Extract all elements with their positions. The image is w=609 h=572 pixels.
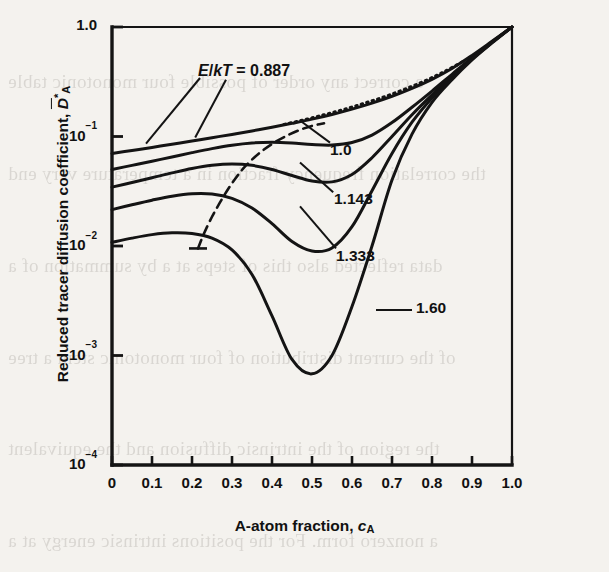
leader-line-header <box>146 78 200 144</box>
y-tick-label: 1.0 <box>0 16 97 33</box>
x-axis-title-text: A-atom fraction, <box>235 517 358 534</box>
curve-series-2 <box>112 27 512 187</box>
curve-label-1.143: 1.143 <box>334 190 373 208</box>
curve-series-0 <box>112 27 512 153</box>
leader-line-1.143 <box>300 162 333 192</box>
auxiliary-curves <box>189 61 464 249</box>
curve-label-1.60: 1.60 <box>416 299 446 317</box>
equals-symbol: = <box>232 62 250 79</box>
leader-line-1.333 <box>300 206 336 248</box>
x-tick-label: 1.0 <box>482 474 542 491</box>
figure-panel: Reduced tracer diffusion coefficient, D*… <box>0 0 609 572</box>
y-axis-symbol: D <box>54 98 71 109</box>
axis-frame <box>112 27 512 465</box>
curve-label-1.333: 1.333 <box>336 247 375 265</box>
leader-line-0.887 <box>195 80 226 138</box>
data-curves <box>112 27 512 374</box>
axis-ticks <box>112 27 512 465</box>
series-label-value: 0.887 <box>250 62 290 79</box>
energy-symbol: E <box>198 62 209 79</box>
x-axis-subscript: A <box>366 523 374 535</box>
y-tick-label: 10−2 <box>0 235 97 253</box>
curve-series-1 <box>112 27 512 169</box>
kT-symbol: kT <box>213 62 232 79</box>
series-label-header: E/kT = 0.887 <box>198 62 290 80</box>
leader-line-1.0 <box>300 120 330 142</box>
y-axis-overbar <box>51 98 52 109</box>
curve-series-3 <box>112 27 512 252</box>
y-tick-label: 10−4 <box>0 454 97 472</box>
y-axis-subscript: A <box>60 86 72 94</box>
curve-series-4 <box>112 27 512 374</box>
curve-label-1.0: 1.0 <box>330 141 352 159</box>
y-tick-label: 10−1 <box>0 126 97 144</box>
x-axis-title: A-atom fraction, cA <box>0 517 609 535</box>
y-tick-label: 10−3 <box>0 345 97 363</box>
